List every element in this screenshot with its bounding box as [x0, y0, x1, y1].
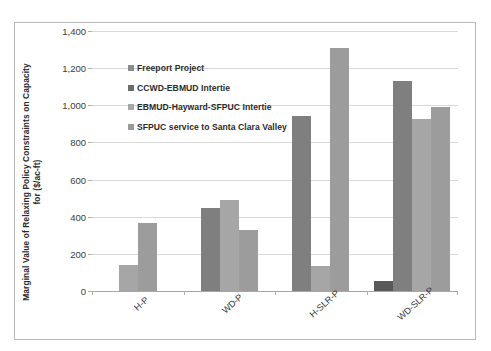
y-axis-title-line1: Marginal Value of Relaxing Policy Constr…: [21, 63, 31, 300]
x-axis-tick-label: WD-P: [220, 292, 245, 315]
bar: [393, 81, 412, 291]
y-axis-tick-label: 1,200: [62, 63, 86, 74]
bar: [119, 265, 138, 291]
x-axis-tick-mark: [275, 291, 276, 295]
bar: [138, 223, 157, 291]
x-axis-tick-mark: [457, 291, 458, 295]
y-axis-tick-label: 600: [70, 174, 86, 185]
y-axis-tick-label: 400: [70, 211, 86, 222]
bar: [330, 48, 349, 291]
y-axis-title: Marginal Value of Relaxing Policy Constr…: [21, 63, 43, 300]
chart-legend: Freeport ProjectCCWD-EBMUD IntertieEBMUD…: [128, 63, 318, 141]
legend-label: EBMUD-Hayward-SFPUC Intertie: [137, 102, 272, 113]
legend-swatch-icon: [128, 85, 134, 91]
x-axis-tick-label: H-SLR-P: [307, 288, 340, 320]
legend-label: Freeport Project: [137, 63, 204, 74]
bar: [239, 230, 258, 291]
x-axis-tick-mark: [184, 291, 185, 295]
legend-label: SFPUC service to Santa Clara Valley: [137, 122, 287, 133]
y-axis-tick-label: 200: [70, 248, 86, 259]
legend-swatch-icon: [128, 65, 134, 71]
y-axis-tick-label: 1,000: [62, 100, 86, 111]
legend-item: EBMUD-Hayward-SFPUC Intertie: [128, 102, 318, 113]
x-axis-tick-label: H-P: [132, 295, 150, 313]
y-axis-tick-label: 0: [81, 286, 86, 297]
chart-figure: Marginal Value of Relaxing Policy Constr…: [14, 22, 476, 340]
legend-label: CCWD-EBMUD Intertie: [137, 83, 230, 94]
legend-swatch-icon: [128, 104, 134, 110]
bar: [374, 281, 393, 291]
bar: [220, 200, 239, 291]
x-axis-tick: WD-P: [184, 291, 276, 337]
y-axis-tick-label: 800: [70, 137, 86, 148]
bar-group: [367, 31, 459, 291]
x-axis-tick-mark: [92, 291, 93, 295]
bar: [431, 107, 450, 291]
x-axis-tick-mark: [367, 291, 368, 295]
y-axis-title-line2: for ($/ac-ft): [32, 63, 43, 300]
y-axis-title-container: Marginal Value of Relaxing Policy Constr…: [15, 23, 49, 341]
y-axis-tick-label: 1,400: [62, 26, 86, 37]
legend-item: Freeport Project: [128, 63, 318, 74]
x-axis-tick: H-SLR-P: [275, 291, 367, 337]
x-axis-tick: H-P: [92, 291, 184, 337]
x-axis: H-PWD-PH-SLR-PWD-SLR-P: [92, 291, 458, 337]
x-axis-tick: WD-SLR-P: [367, 291, 459, 337]
bar: [412, 119, 431, 291]
legend-item: SFPUC service to Santa Clara Valley: [128, 122, 318, 133]
bar: [201, 208, 220, 291]
legend-swatch-icon: [128, 124, 134, 130]
x-axis-tick-label: WD-SLR-P: [396, 285, 436, 322]
bar: [311, 266, 330, 291]
legend-item: CCWD-EBMUD Intertie: [128, 83, 318, 94]
bar: [292, 116, 311, 291]
